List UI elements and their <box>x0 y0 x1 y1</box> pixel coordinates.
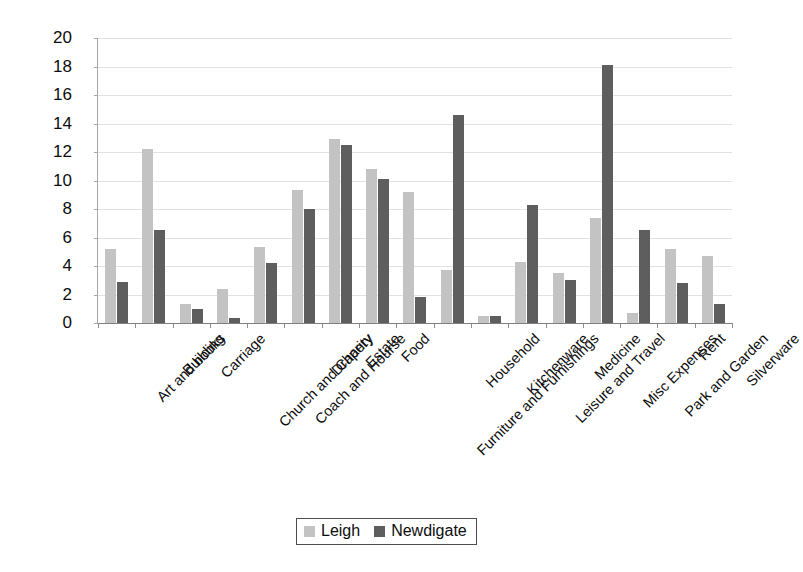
legend-swatch-icon <box>374 526 385 537</box>
bar-group <box>98 38 135 323</box>
bar-newdigate <box>490 316 501 323</box>
bar-newdigate <box>266 263 277 323</box>
bar-leigh <box>142 149 153 323</box>
bar-group <box>695 38 732 323</box>
x-tick-mark <box>434 323 435 328</box>
y-tick-label: 20 <box>28 29 72 46</box>
bar-leigh <box>292 190 303 323</box>
y-tick-label: 2 <box>28 286 72 303</box>
bar-group <box>135 38 172 323</box>
bar-newdigate <box>602 65 613 323</box>
bar-leigh <box>366 169 377 323</box>
bar-group <box>210 38 247 323</box>
x-tick-mark <box>322 323 323 328</box>
x-tick-mark <box>396 323 397 328</box>
bar-newdigate <box>378 179 389 323</box>
bar-newdigate <box>714 304 725 323</box>
x-tick-mark <box>546 323 547 328</box>
bar-group <box>396 38 433 323</box>
bar-newdigate <box>192 309 203 323</box>
x-tick-mark <box>359 323 360 328</box>
bar-newdigate <box>677 283 688 323</box>
x-tick-mark <box>284 323 285 328</box>
bar-leigh <box>627 313 638 323</box>
bar-group <box>583 38 620 323</box>
x-tick-mark <box>210 323 211 328</box>
x-tick-mark <box>657 323 658 328</box>
legend-label: Newdigate <box>391 523 467 539</box>
x-tick-mark <box>583 323 584 328</box>
y-tick-label: 14 <box>28 115 72 132</box>
bar-newdigate <box>229 318 240 323</box>
bar-leigh <box>553 273 564 323</box>
bar-leigh <box>702 256 713 323</box>
bar-newdigate <box>341 145 352 323</box>
bar-leigh <box>217 289 228 323</box>
bar-newdigate <box>565 280 576 323</box>
y-tick-label: 6 <box>28 229 72 246</box>
y-tick-label: 16 <box>28 86 72 103</box>
x-tick-mark <box>173 323 174 328</box>
x-tick-mark <box>471 323 472 328</box>
bar-newdigate <box>639 230 650 323</box>
bar-newdigate <box>117 282 128 323</box>
bar-group <box>657 38 694 323</box>
legend-swatch-icon <box>304 526 315 537</box>
bar-leigh <box>441 270 452 323</box>
bar-group <box>546 38 583 323</box>
y-tick-label: 4 <box>28 257 72 274</box>
chart-legend: LeighNewdigate <box>296 518 477 545</box>
plot-area: 20181614121086420 <box>97 38 732 324</box>
bar-leigh <box>105 249 116 323</box>
bar-group <box>284 38 321 323</box>
y-tick-label: 18 <box>28 58 72 75</box>
bar-leigh <box>515 262 526 323</box>
bar-leigh <box>403 192 414 323</box>
x-tick-mark <box>620 323 621 328</box>
x-axis-label: Rent <box>696 331 728 363</box>
bar-group <box>322 38 359 323</box>
bar-newdigate <box>154 230 165 323</box>
x-tick-mark <box>732 323 733 328</box>
chart-title <box>0 0 750 3</box>
bar-group <box>247 38 284 323</box>
bar-leigh <box>180 304 191 323</box>
bar-group <box>508 38 545 323</box>
legend-item-leigh[interactable]: Leigh <box>304 523 360 539</box>
x-tick-mark <box>135 323 136 328</box>
y-tick-label: 0 <box>28 314 72 331</box>
bar-leigh <box>590 218 601 323</box>
y-tick-label: 10 <box>28 172 72 189</box>
y-tick-label: 12 <box>28 143 72 160</box>
x-tick-mark <box>247 323 248 328</box>
legend-label: Leigh <box>321 523 360 539</box>
bar-newdigate <box>304 209 315 323</box>
bar-newdigate <box>453 115 464 323</box>
bar-group <box>620 38 657 323</box>
legend-item-newdigate[interactable]: Newdigate <box>374 523 467 539</box>
bar-newdigate <box>527 205 538 323</box>
bar-group <box>359 38 396 323</box>
bar-leigh <box>254 247 265 323</box>
x-tick-mark <box>98 323 99 328</box>
x-axis-label: Carriage <box>219 331 269 381</box>
x-tick-mark <box>695 323 696 328</box>
bar-group <box>471 38 508 323</box>
y-tick-label: 8 <box>28 200 72 217</box>
bar-leigh <box>665 249 676 323</box>
bar-newdigate <box>415 297 426 323</box>
bar-group <box>173 38 210 323</box>
x-tick-mark <box>508 323 509 328</box>
bar-leigh <box>478 316 489 323</box>
bar-leigh <box>329 139 340 323</box>
bar-group <box>434 38 471 323</box>
